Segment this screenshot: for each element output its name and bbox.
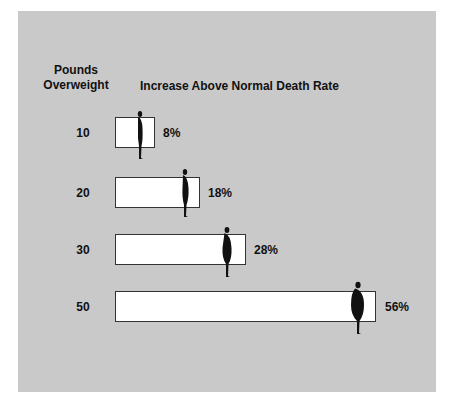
category-label: 50 [68,300,98,314]
value-label: 56% [385,300,409,314]
category-label: 30 [68,243,98,257]
value-label: 8% [163,126,180,140]
person-silhouette-icon [219,226,237,278]
person-silhouette-icon [133,110,147,160]
row-axis-header-line2: Overweight [36,78,116,93]
row-axis-header-line1: Pounds [36,63,116,78]
bar [115,291,376,322]
chart-title: Increase Above Normal Death Rate [140,79,339,93]
person-silhouette-icon [178,168,194,218]
value-label: 18% [208,186,232,200]
category-label: 10 [68,126,98,140]
person-silhouette-icon [348,281,370,335]
value-label: 28% [254,243,278,257]
category-label: 20 [68,186,98,200]
row-axis-header: Pounds Overweight [36,63,116,93]
